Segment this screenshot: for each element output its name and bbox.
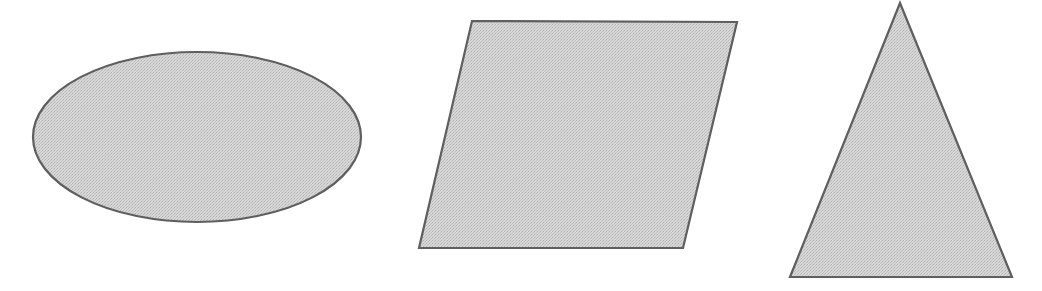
shape-parallelogram[interactable]: [419, 21, 737, 248]
ellipse-outline[interactable]: [33, 52, 361, 222]
shape-ellipse[interactable]: [33, 52, 361, 222]
figure-canvas: [0, 0, 1042, 291]
parallelogram-outline[interactable]: [419, 21, 737, 248]
shapes-figure: [0, 0, 1042, 291]
